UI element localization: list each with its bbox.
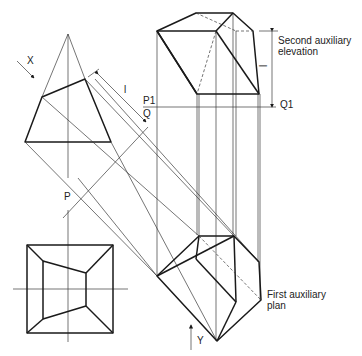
label-p1: P1 [143, 95, 155, 107]
label-p: P [64, 191, 71, 203]
front-elevation [25, 34, 111, 178]
label-first-aux-2: plan [267, 300, 286, 312]
label-second-aux-2: elevation [278, 46, 318, 58]
label-l: l [124, 84, 126, 96]
label-l-dim: l [258, 65, 270, 67]
label-y: Y [197, 335, 204, 347]
label-q: Q [143, 108, 151, 120]
label-x: X [27, 55, 34, 67]
second-auxiliary-elevation [157, 13, 259, 94]
label-q1: Q1 [280, 99, 293, 111]
dimension-l [98, 74, 146, 122]
plan-view [13, 210, 128, 342]
